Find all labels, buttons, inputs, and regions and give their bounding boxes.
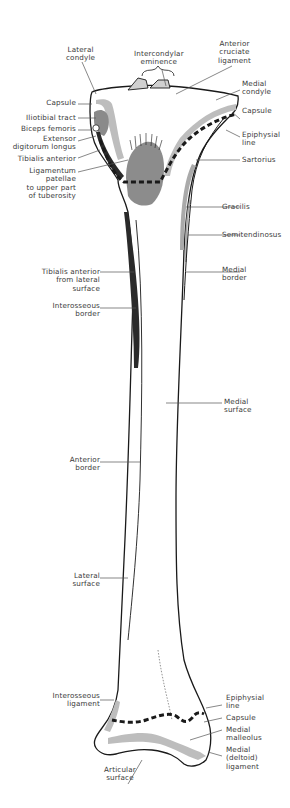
label-lateral-condyle: Lateral condyle (66, 46, 95, 63)
label-interosseous-border: Interosseous border (52, 302, 100, 319)
label-articular-surface: Articular surface (104, 766, 136, 783)
label-capsule-lateral: Capsule (46, 99, 76, 107)
label-gracilis: Gracilis (222, 203, 250, 211)
label-medial-condyle: Medial condyle (242, 80, 271, 97)
label-interosseous-ligament: Interosseous ligament (52, 692, 100, 709)
label-biceps-femoris: Biceps femoris (21, 125, 76, 133)
label-intercondylar-eminence: Intercondylar eminence (134, 50, 184, 67)
biceps-femoris-area (93, 125, 99, 131)
label-ligamentum-patellae: Ligamentum patellae to upper part of tub… (26, 167, 76, 201)
label-sartorius: Sartorius (242, 156, 276, 164)
label-medial-malleolus: Medial malleolus (226, 726, 262, 743)
label-tibialis-anterior-lateral-surface: Tibialis anterior from lateral surface (42, 268, 100, 293)
label-anterior-border: Anterior border (70, 456, 100, 473)
label-capsule-lower: Capsule (226, 714, 256, 722)
label-capsule-medial: Capsule (242, 107, 272, 115)
label-epiphysial-line-lower: Epiphysial line (226, 694, 264, 711)
label-medial-border: Medial border (222, 266, 247, 283)
label-iliotibial-tract: Iliotibial tract (26, 114, 76, 122)
label-medial-deltoid-ligament: Medial (deltoid) ligament (226, 746, 259, 771)
label-extensor-digitorum-longus: Extensor digitorum longus (13, 135, 76, 152)
label-epiphysial-line-upper: Epiphysial line (242, 131, 280, 148)
eminence-brace (142, 66, 174, 76)
label-anterior-cruciate-ligament: Anterior cruciate ligament (218, 40, 251, 65)
tibia-bone-outline (90, 85, 238, 766)
label-lateral-surface: Lateral surface (72, 572, 100, 589)
label-semitendinosus: Semitendinosus (222, 231, 281, 239)
label-medial-surface: Medial surface (224, 398, 252, 415)
label-tibialis-anterior: Tibialis anterior (18, 155, 76, 163)
